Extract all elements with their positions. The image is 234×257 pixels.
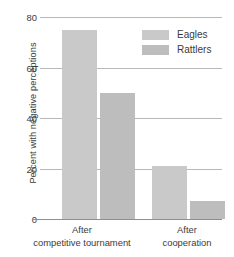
bar-eagles-1 [152, 166, 187, 219]
bar-rattlers-1 [190, 201, 225, 219]
x-axis-label-line: After [72, 224, 92, 235]
x-axis-label-line: After [177, 224, 197, 235]
y-tick-mark [40, 17, 46, 18]
gridline [46, 17, 222, 18]
x-axis-label-1: Aftercooperation [140, 224, 234, 249]
y-tick-mark [40, 118, 46, 119]
legend-label: Eagles [177, 30, 208, 40]
legend-swatch-icon [142, 30, 169, 40]
y-tick-label: 40 [27, 113, 37, 124]
x-axis-line [32, 219, 222, 220]
y-tick-mark [40, 68, 46, 69]
legend-item-eagles: Eagles [142, 28, 211, 41]
legend-swatch-icon [142, 45, 169, 55]
x-axis-label-line: competitive tournament [2, 237, 162, 250]
bar-eagles-0 [62, 30, 97, 219]
x-axis-label-0: Aftercompetitive tournament [2, 224, 162, 249]
y-tick-label: 20 [27, 163, 37, 174]
y-tick-label: 80 [27, 12, 37, 23]
legend-item-rattlers: Rattlers [142, 43, 211, 56]
y-tick-mark [40, 169, 46, 170]
y-tick-label: 60 [27, 62, 37, 73]
legend-label: Rattlers [177, 45, 211, 55]
bar-chart: Percent with negative perceptions 020406… [0, 0, 234, 257]
legend: EaglesRattlers [142, 28, 211, 58]
x-axis-label-line: cooperation [140, 237, 234, 250]
bar-rattlers-0 [100, 93, 135, 219]
